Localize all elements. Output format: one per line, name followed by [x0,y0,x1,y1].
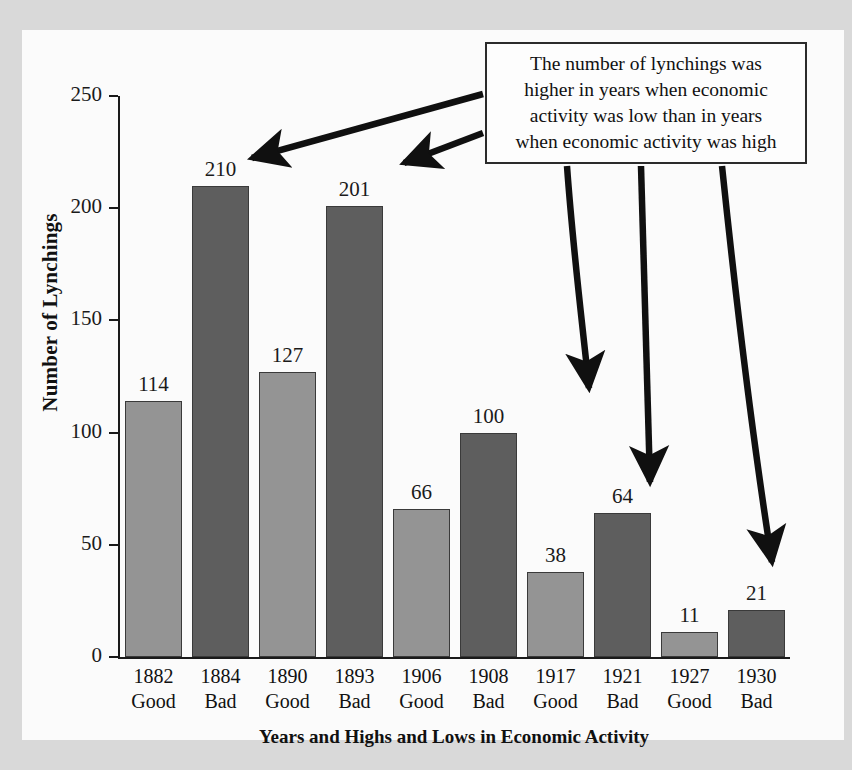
x-category-1921: 1921Bad [589,664,656,714]
annotation-line: higher in years when economic [496,77,796,103]
x-axis-title: Years and Highs and Lows in Economic Act… [118,726,790,748]
bar-group: 100 [460,96,517,657]
bar-1893[interactable] [326,206,383,657]
category-year: 1908 [455,664,522,689]
category-year: 1917 [522,664,589,689]
bar-group: 210 [192,96,249,657]
bar-1917[interactable] [527,572,584,657]
bar-value-label: 64 [612,484,633,509]
x-category-1893: 1893Bad [321,664,388,714]
category-status: Bad [187,689,254,714]
bar-value-label: 66 [411,480,432,505]
bar-1921[interactable] [594,513,651,657]
bar-1882[interactable] [125,401,182,657]
y-tick-label: 0 [40,643,102,668]
plot-area: 1142101272016610038641121 [120,96,790,657]
bar-1930[interactable] [728,610,785,657]
category-year: 1890 [254,664,321,689]
annotation-line: The number of lynchings was [496,51,796,77]
bar-group: 21 [728,96,785,657]
category-status: Bad [589,689,656,714]
x-category-1890: 1890Good [254,664,321,714]
bar-1884[interactable] [192,186,249,657]
bar-group: 38 [527,96,584,657]
bar-value-label: 201 [339,177,371,202]
bar-group: 127 [259,96,316,657]
category-year: 1906 [388,664,455,689]
y-tick-label: 250 [40,82,102,107]
bar-1890[interactable] [259,372,316,657]
annotation-line: activity was low than in years [496,103,796,129]
x-category-1884: 1884Bad [187,664,254,714]
y-tick-mark [109,544,118,546]
x-category-1927: 1927Good [656,664,723,714]
bar-group: 64 [594,96,651,657]
y-tick-mark [109,656,118,658]
category-year: 1921 [589,664,656,689]
y-axis-title: Number of Lynchings [38,203,63,423]
category-status: Good [254,689,321,714]
category-year: 1927 [656,664,723,689]
bar-value-label: 114 [138,372,169,397]
annotation-callout: The number of lynchings washigher in yea… [485,42,807,164]
bar-1927[interactable] [661,632,718,657]
category-status: Good [120,689,187,714]
x-category-1908: 1908Bad [455,664,522,714]
bar-group: 201 [326,96,383,657]
bar-value-label: 21 [746,581,767,606]
category-status: Bad [455,689,522,714]
bar-value-label: 38 [545,543,566,568]
bar-chart-figure: 050100150200250 Number of Lynchings Year… [0,0,852,770]
bar-value-label: 127 [272,343,304,368]
bar-value-label: 100 [473,404,505,429]
figure-page: 050100150200250 Number of Lynchings Year… [0,0,852,770]
category-status: Good [522,689,589,714]
bar-group: 11 [661,96,718,657]
category-year: 1930 [723,664,790,689]
category-status: Good [388,689,455,714]
annotation-line: when economic activity was high [496,129,796,155]
y-tick-mark [109,319,118,321]
y-tick-mark [109,95,118,97]
bar-value-label: 11 [679,603,699,628]
category-year: 1884 [187,664,254,689]
x-category-1906: 1906Good [388,664,455,714]
bar-group: 114 [125,96,182,657]
x-category-1930: 1930Bad [723,664,790,714]
bar-value-label: 210 [205,157,237,182]
bar-1906[interactable] [393,509,450,657]
category-status: Bad [723,689,790,714]
category-year: 1882 [120,664,187,689]
category-status: Good [656,689,723,714]
bar-group: 66 [393,96,450,657]
y-tick-mark [109,207,118,209]
y-tick-label: 50 [40,531,102,556]
x-category-1917: 1917Good [522,664,589,714]
x-axis-line [118,657,790,659]
y-tick-mark [109,432,118,434]
x-category-1882: 1882Good [120,664,187,714]
category-year: 1893 [321,664,388,689]
bar-1908[interactable] [460,433,517,657]
category-status: Bad [321,689,388,714]
